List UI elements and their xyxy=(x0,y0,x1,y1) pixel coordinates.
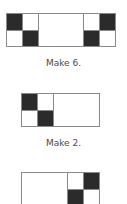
cell-top-1 xyxy=(7,14,23,30)
cell-bottom-2 xyxy=(38,110,54,126)
divider xyxy=(7,30,39,31)
cell-top-1 xyxy=(22,94,38,110)
figure-make-2-strip xyxy=(21,93,100,127)
cell-bottom-second-last xyxy=(67,189,83,204)
cell-top-last xyxy=(83,173,99,189)
figure-3-strip xyxy=(21,172,100,204)
divider xyxy=(67,189,99,190)
cell-top-5 xyxy=(99,14,115,30)
figure-make-6-strip xyxy=(6,13,116,47)
caption-make-6: Make 6. xyxy=(0,58,127,68)
divider xyxy=(22,110,54,111)
divider xyxy=(83,30,115,31)
caption-make-2: Make 2. xyxy=(0,138,127,148)
cell-bottom-4 xyxy=(83,30,99,46)
cell-bottom-2 xyxy=(23,30,39,46)
